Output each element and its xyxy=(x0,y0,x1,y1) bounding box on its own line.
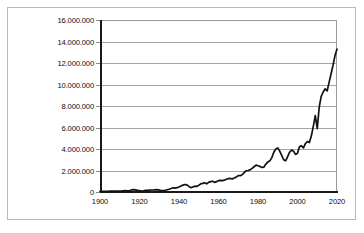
x-tick-label: 2020 xyxy=(329,197,345,206)
x-tick-label: 1960 xyxy=(210,197,226,206)
x-axis-tick-labels: 1900192019401960198020002020 xyxy=(0,197,364,211)
x-tick-label: 1900 xyxy=(92,197,108,206)
x-tick-label: 2000 xyxy=(289,197,305,206)
y-tick-label: 0 xyxy=(90,188,94,197)
x-tick-label: 1980 xyxy=(250,197,266,206)
series-line-chromium-production xyxy=(100,20,337,192)
y-tick-label: 14.000.000 xyxy=(57,37,94,46)
x-tick-label: 1940 xyxy=(171,197,187,206)
y-tick-label: 12.000.000 xyxy=(57,59,94,68)
y-tick-label: 16.000.000 xyxy=(57,16,94,25)
y-tick-label: 8.000.000 xyxy=(62,102,94,111)
plot-wrapper: Annual chromium production (metric tons … xyxy=(0,0,364,233)
y-tick-label: 4.000.000 xyxy=(62,145,94,154)
y-tick-label: 6.000.000 xyxy=(62,123,94,132)
y-tick-label: 2.000.000 xyxy=(62,166,94,175)
x-tick-label: 1920 xyxy=(131,197,147,206)
y-tick-label: 10.000.000 xyxy=(57,80,94,89)
chart-figure: Annual chromium production (metric tons … xyxy=(0,0,364,233)
